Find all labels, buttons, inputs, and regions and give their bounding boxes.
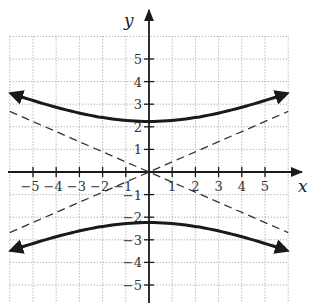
y-axis-label: y [123,10,134,30]
y-tick-label: −4 [123,255,142,270]
y-tick-label: −1 [123,188,142,203]
y-tick-label: −3 [123,233,142,248]
x-tick-label: −5 [20,179,39,194]
x-axis-label: x [298,176,308,196]
y-tick-label: 3 [134,97,142,112]
y-tick-label: 1 [134,142,142,157]
x-tick-labels: −5−4−3−2−112345 [20,179,269,194]
x-tick-label: 4 [238,179,246,194]
x-tick-label: −4 [44,179,63,194]
x-tick-label: −3 [67,179,86,194]
hyperbola-chart: −5−4−3−2−112345 −5−4−3−2−112345 x y [0,0,310,303]
y-tick-label: −5 [123,278,142,293]
x-tick-label: −2 [90,179,109,194]
y-tick-label: 4 [134,75,142,90]
y-tick-label: 5 [134,52,142,67]
x-tick-label: 5 [261,179,269,194]
x-tick-label: 3 [214,179,222,194]
axes [8,10,302,303]
